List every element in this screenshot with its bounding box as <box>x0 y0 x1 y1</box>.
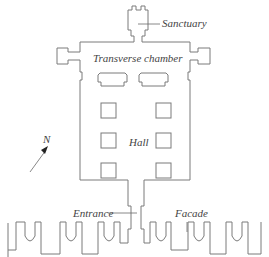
hall-pillar <box>101 133 116 148</box>
entrance-passage-right <box>141 188 144 243</box>
north-arrow-head <box>41 146 48 154</box>
facade-left <box>8 222 128 257</box>
facade-right <box>144 222 261 254</box>
hall-pillar <box>101 163 116 178</box>
facade-label: Facade <box>175 208 208 219</box>
hall-pillar <box>156 163 171 178</box>
transverse-chamber-label: Transverse chamber <box>93 53 183 64</box>
hall-label: Hall <box>129 137 149 148</box>
chamber-block-right <box>139 73 168 86</box>
hall-pillar <box>101 103 116 118</box>
entrance-label: Entrance <box>73 208 113 219</box>
north-label: N <box>43 134 50 145</box>
entrance-passage-left <box>128 188 131 243</box>
chamber-block-left <box>98 73 127 86</box>
hall-pillar <box>156 133 171 148</box>
floor-plan <box>0 0 269 257</box>
north-arrow-shaft <box>30 150 46 172</box>
hall-pillar <box>156 103 171 118</box>
sanctuary-label: Sanctuary <box>162 18 207 29</box>
